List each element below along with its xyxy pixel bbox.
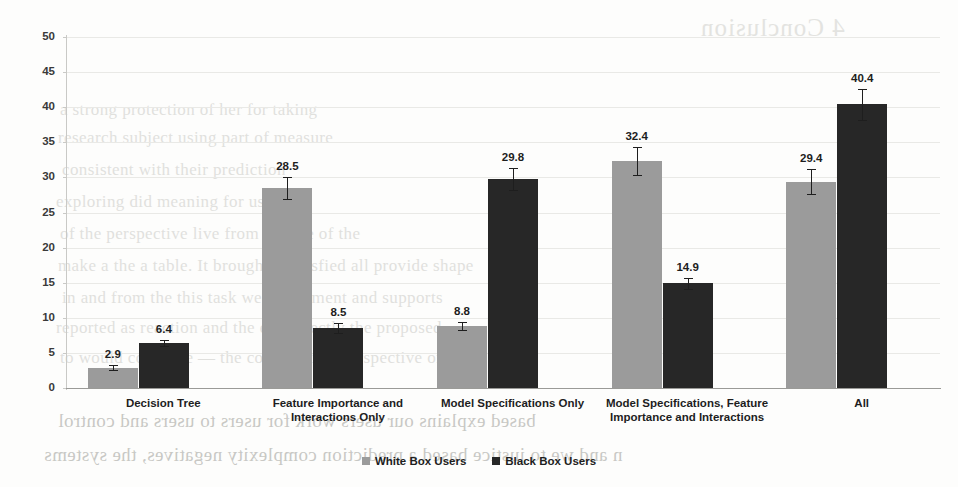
plot-area: 2.96.428.58.58.829.832.414.929.440.4	[67, 37, 940, 388]
y-tick-label: 15	[15, 276, 55, 288]
x-axis-label: Feature Importance andInteractions Only	[243, 396, 433, 424]
y-tick-label: 25	[15, 206, 55, 218]
y-tick-label: 50	[15, 30, 55, 42]
x-axis-label-line: Importance and Interactions	[592, 410, 782, 424]
bar-black-box[interactable]	[488, 179, 538, 388]
error-bar-cap	[160, 346, 169, 347]
error-bar	[338, 323, 339, 333]
error-bar-cap	[684, 289, 693, 290]
error-bar-cap	[334, 333, 343, 334]
legend-label: Black Box Users	[505, 455, 596, 467]
error-bar-cap	[807, 169, 816, 170]
error-bar-cap	[109, 365, 118, 366]
x-axis-label-line: Model Specifications, Feature	[592, 396, 782, 410]
error-bar-cap	[509, 168, 518, 169]
bar-white-box[interactable]	[262, 188, 312, 388]
error-bar-cap	[458, 322, 467, 323]
error-bar-cap	[858, 120, 867, 121]
error-bar	[462, 322, 463, 330]
bar-value-label: 2.9	[88, 348, 138, 360]
chart-legend: White Box UsersBlack Box Users	[0, 455, 958, 467]
error-bar-cap	[633, 175, 642, 176]
legend-item[interactable]: White Box Users	[362, 455, 466, 467]
x-axis-label-line: Model Specifications Only	[418, 396, 608, 410]
bar-black-box[interactable]	[313, 328, 363, 388]
bar-value-label: 8.5	[313, 306, 363, 318]
bar-value-label: 14.9	[663, 261, 713, 273]
x-axis-label: Decision Tree	[68, 396, 258, 410]
x-axis-label: All	[767, 396, 957, 410]
error-bar-cap	[807, 194, 816, 195]
y-tick-label: 35	[15, 135, 55, 147]
x-axis-label: Model Specifications Only	[418, 396, 608, 410]
error-bar	[637, 147, 638, 175]
bar-black-box[interactable]	[837, 104, 887, 388]
legend-label: White Box Users	[375, 455, 466, 467]
x-axis-line	[66, 388, 941, 389]
x-axis-label-line: Feature Importance and	[243, 396, 433, 410]
error-bar	[513, 168, 514, 190]
bar-black-box[interactable]	[663, 283, 713, 388]
bar-black-box[interactable]	[139, 343, 189, 388]
bar-value-label: 29.8	[488, 151, 538, 163]
bar-value-label: 29.4	[786, 152, 836, 164]
y-tick-label: 45	[15, 65, 55, 77]
y-tick-label: 40	[15, 100, 55, 112]
error-bar-cap	[633, 147, 642, 148]
error-bar-cap	[458, 330, 467, 331]
bar-value-label: 40.4	[837, 72, 887, 84]
x-axis-label-line: Interactions Only	[243, 410, 433, 424]
legend-swatch-icon	[492, 457, 500, 465]
error-bar	[811, 169, 812, 194]
error-bar-cap	[160, 340, 169, 341]
y-tick-label: 0	[15, 381, 55, 393]
error-bar	[862, 89, 863, 120]
y-tick-label: 20	[15, 241, 55, 253]
error-bar-cap	[684, 278, 693, 279]
error-bar-cap	[334, 323, 343, 324]
bar-value-label: 32.4	[612, 130, 662, 142]
bar-white-box[interactable]	[786, 182, 836, 388]
error-bar	[287, 177, 288, 199]
x-axis-label-line: Decision Tree	[68, 396, 258, 410]
bar-value-label: 8.8	[437, 305, 487, 317]
error-bar-cap	[109, 370, 118, 371]
error-bar-cap	[283, 177, 292, 178]
error-bar-cap	[509, 190, 518, 191]
error-bar-cap	[858, 89, 867, 90]
legend-swatch-icon	[362, 457, 370, 465]
y-tick-label: 30	[15, 170, 55, 182]
x-axis-label: Model Specifications, FeatureImportance …	[592, 396, 782, 424]
legend-item[interactable]: Black Box Users	[492, 455, 596, 467]
bar-chart: 50454035302520151050 2.96.428.58.58.829.…	[0, 0, 958, 487]
y-tick-label: 5	[15, 346, 55, 358]
y-tick-label: 10	[15, 311, 55, 323]
bar-value-label: 6.4	[139, 323, 189, 335]
bar-white-box[interactable]	[612, 161, 662, 388]
error-bar	[688, 278, 689, 289]
bar-value-label: 28.5	[262, 160, 312, 172]
bar-white-box[interactable]	[437, 326, 487, 388]
error-bar-cap	[283, 199, 292, 200]
x-axis-label-line: All	[767, 396, 957, 410]
